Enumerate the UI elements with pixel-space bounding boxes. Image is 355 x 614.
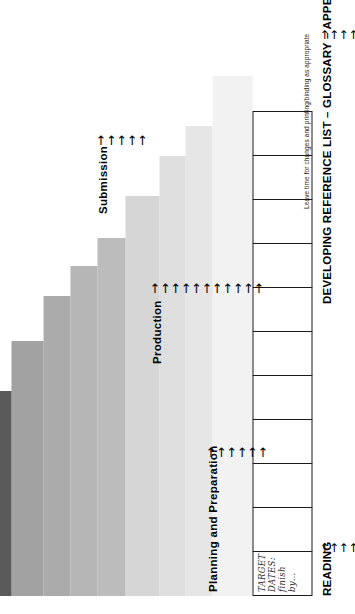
target-date-cell[interactable] [252,507,312,552]
target-date-cell[interactable]: TARGET DATES: finish by… [252,551,312,596]
reading-arrows-icon: ↑↑↑↑↑↑↑↑↑↑↑↑↑↑↑↑↑↑↑↑↑↑↑↑↑↑↑↑↑ [319,542,355,554]
staircase-bar [159,156,185,596]
staircase-bar [0,391,11,596]
phase-arrows-icon: ↑↑↑↑↑↑↑↑↑↑↑ [149,282,263,295]
diagram-canvas: TARGET DATES: finish by… Planning and Pr… [0,0,355,614]
staircase-bar [70,266,97,596]
phase-label-production: Production [150,300,162,364]
staircase-bar [125,196,159,596]
phase-arrows-icon: ↑↑↑↑↑ [95,134,147,147]
appendices-arrows-icon: ↑↑↑↑ [319,29,355,41]
printing-note: Leave time for changes and printing/bind… [302,34,309,209]
staircase-bar [43,296,70,596]
target-date-cell[interactable] [252,463,312,508]
appendices-label: DEVELOPING REFERENCE LIST – GLOSSARY – A… [320,0,332,304]
staircase-bar [11,341,43,596]
staircase-bar [97,238,125,596]
phase-label-planning-and-preparation: Planning and Preparation [206,446,218,593]
phase-arrows-icon: ↑↑↑↑↑↑ [205,446,267,459]
phase-label-submission: Submission [96,146,108,214]
target-date-cell[interactable] [252,375,312,420]
target-dates-label: TARGET DATES: finish by… [253,552,296,595]
target-date-cell[interactable] [252,331,312,376]
